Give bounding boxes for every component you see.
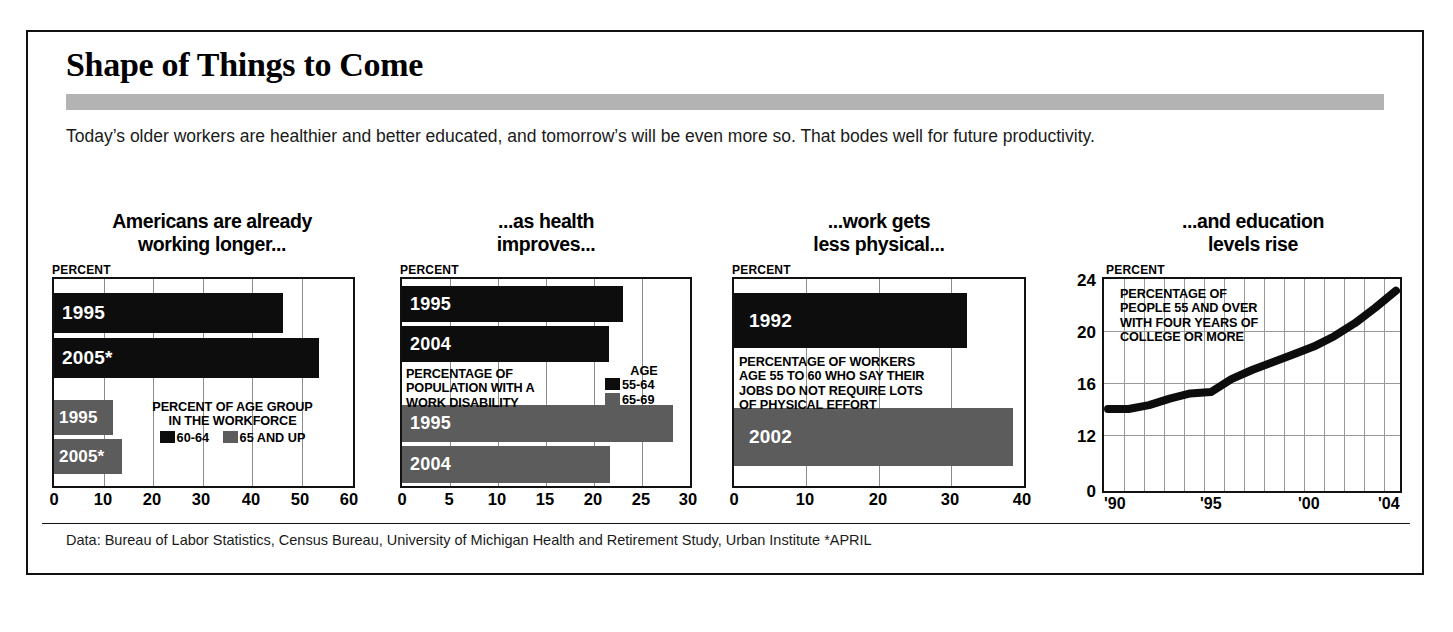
legend-swatch-dark-icon <box>160 431 175 443</box>
bar-2004-55-64: 2004 <box>402 326 609 362</box>
bar-1992: 1992 <box>734 293 967 348</box>
y-tick: 24 <box>1058 271 1096 291</box>
y-tick: 16 <box>1058 375 1096 395</box>
x-tick: 30 <box>941 490 959 509</box>
bar-2005-60-64: 2005* <box>54 338 319 378</box>
bar-label: 1995 <box>402 294 451 315</box>
x-tick: '90 <box>1104 495 1126 513</box>
x-tick: 20 <box>584 490 602 509</box>
chart-note: PERCENT OF AGE GROUP IN THE WORKFORCE <box>120 400 345 429</box>
x-tick: 40 <box>242 490 260 509</box>
x-tick: 20 <box>143 490 161 509</box>
bar-2002: 2002 <box>734 408 1013 466</box>
bar-label: 2005* <box>54 347 113 369</box>
plot-area: 1995 2005* 1995 2005* PERCENT OF AGE GRO… <box>52 277 355 488</box>
bar-2004-65-69: 2004 <box>402 446 610 483</box>
x-tick: 20 <box>869 490 887 509</box>
x-tick: '95 <box>1200 495 1222 513</box>
bar-1995-60-64: 1995 <box>54 293 283 333</box>
x-tick: 15 <box>536 490 554 509</box>
page-title: Shape of Things to Come <box>66 46 423 84</box>
legend-swatch-dark-icon <box>605 378 620 390</box>
infographic-page: Shape of Things to Come Today’s older wo… <box>0 0 1453 632</box>
x-tick: 10 <box>488 490 506 509</box>
bar-1995-65up: 1995 <box>54 400 113 435</box>
bar-label: 1992 <box>734 310 792 332</box>
x-tick: 40 <box>1013 490 1031 509</box>
axis-unit-label: PERCENT <box>732 263 1044 277</box>
bar-label: 2004 <box>402 334 451 355</box>
y-tick: 20 <box>1058 323 1096 343</box>
chart-title: ...work gets less physical... <box>714 210 1044 256</box>
bar-2005-65up: 2005* <box>54 439 122 474</box>
axis-unit-label: PERCENT <box>1106 263 1418 277</box>
x-tick: 30 <box>679 490 697 509</box>
chart-panel-physical: ...work gets less physical... PERCENT 19… <box>714 210 1044 512</box>
y-tick: 0 <box>1058 482 1096 502</box>
plot-area: 1992 2002 PERCENTAGE OF WORKERS AGE 55 T… <box>732 277 1026 488</box>
bar-label: 2005* <box>54 447 104 467</box>
x-tick: '00 <box>1298 495 1320 513</box>
bar-label: 2004 <box>402 454 451 475</box>
x-tick: 60 <box>340 490 358 509</box>
chart-panel-education: ...and education levels rise PERCENT 24 … <box>1048 210 1418 512</box>
chart-note: PERCENTAGE OF WORKERS AGE 55 TO 60 WHO S… <box>739 355 1009 413</box>
chart-title: ...and education levels rise <box>1048 210 1418 256</box>
bar-label: 1995 <box>54 408 98 428</box>
legend-item-60-64: 60-64 <box>160 431 213 445</box>
legend-item-65-69: 65-69 <box>598 393 690 407</box>
chart-note: PERCENTAGE OF POPULATION WITH A WORK DIS… <box>406 367 606 410</box>
bar-label: 2002 <box>734 426 792 448</box>
bar-1995-65-69: 1995 <box>402 405 673 442</box>
legend-title: AGE <box>598 364 690 378</box>
x-axis: 0 5 10 15 20 25 30 <box>400 490 692 512</box>
chart-legend: AGE 55-64 65-69 <box>598 364 690 407</box>
chart-title: ...as health improves... <box>386 210 706 256</box>
chart-note: PERCENTAGE OF PEOPLE 55 AND OVER WITH FO… <box>1120 287 1310 345</box>
intro-text: Today’s older workers are healthier and … <box>66 124 1388 149</box>
bar-1995-55-64: 1995 <box>402 286 623 322</box>
infographic-frame: Shape of Things to Come Today’s older wo… <box>26 30 1424 575</box>
x-axis: 0 10 20 30 40 50 60 <box>52 490 355 512</box>
x-tick: 10 <box>796 490 814 509</box>
x-tick: '04 <box>1378 495 1400 513</box>
chart-panel-workforce: Americans are already working longer... … <box>42 210 382 512</box>
axis-unit-label: PERCENT <box>400 263 706 277</box>
x-axis: 0 10 20 30 40 <box>732 490 1026 512</box>
chart-title: Americans are already working longer... <box>42 210 382 256</box>
line-chart-body: 24 20 16 12 0 <box>1048 277 1418 512</box>
chart-legend: 60-64 65 AND UP <box>120 431 345 445</box>
gridline <box>302 279 303 486</box>
bar-label: 1995 <box>54 302 105 324</box>
source-note: Data: Bureau of Labor Statistics, Census… <box>66 532 872 548</box>
legend-swatch-gray-icon <box>223 431 238 443</box>
x-tick: 50 <box>291 490 309 509</box>
x-tick: 0 <box>729 490 738 509</box>
x-tick: 10 <box>94 490 112 509</box>
x-tick: 25 <box>632 490 650 509</box>
bar-label: 1995 <box>402 413 451 434</box>
plot-area: 1995 2004 1995 2004 PERCENTAGE OF POPULA… <box>400 277 692 488</box>
x-tick: 30 <box>192 490 210 509</box>
x-tick: 0 <box>49 490 58 509</box>
legend-swatch-gray-icon <box>605 393 620 405</box>
y-tick: 12 <box>1058 427 1096 447</box>
plot-area: PERCENTAGE OF PEOPLE 55 AND OVER WITH FO… <box>1102 277 1402 493</box>
footer-divider <box>42 523 1410 524</box>
legend-item-65-and-up: 65 AND UP <box>223 431 306 445</box>
axis-unit-label: PERCENT <box>52 263 382 277</box>
x-tick: 5 <box>444 490 453 509</box>
chart-panel-health: ...as health improves... PERCENT 1995 20… <box>386 210 706 512</box>
x-tick: 0 <box>397 490 406 509</box>
title-rule-band <box>66 94 1384 110</box>
legend-item-55-64: 55-64 <box>598 378 690 392</box>
